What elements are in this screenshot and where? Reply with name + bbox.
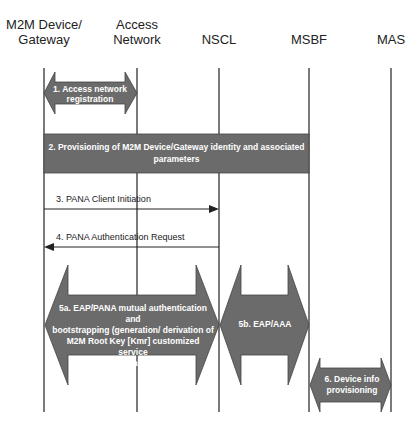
step3-label: 3. PANA Client Initiation: [56, 194, 151, 204]
label-line: registration: [50, 94, 130, 104]
label-line: bootstrapping (generation/ derivation of: [52, 325, 214, 336]
label-line: layer parameters): [52, 358, 214, 369]
label-line: provisioning: [316, 385, 388, 396]
label-line: 5a. EAP/PANA mutual authentication and: [52, 303, 214, 325]
step1-label: 1. Access network registration: [50, 84, 130, 104]
step5b-label: 5b. EAP/AAA: [230, 319, 300, 329]
step5a-label: 5a. EAP/PANA mutual authentication and b…: [52, 303, 214, 369]
step4-label: 4. PANA Authentication Request: [56, 232, 184, 242]
label-line: 2. Provisioning of M2M Device/Gateway id…: [46, 141, 307, 153]
step2-label: 2. Provisioning of M2M Device/Gateway id…: [46, 141, 307, 165]
step3-arrowhead-icon: [209, 205, 219, 213]
step6-label: 6. Device info provisioning: [316, 374, 388, 396]
step4-arrowhead-icon: [44, 243, 54, 251]
label-line: 1. Access network: [50, 84, 130, 94]
label-line: M2M Root Key [Kmr] customized service: [52, 336, 214, 358]
label-line: parameters: [46, 153, 307, 165]
label-line: 6. Device info: [316, 374, 388, 385]
